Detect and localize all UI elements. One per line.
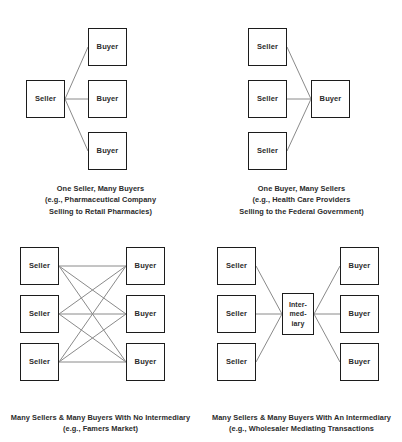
intermediary-label-line-3: iary — [292, 319, 305, 328]
node-seller-1: Seller — [20, 247, 59, 285]
node-buyer-1: Buyer — [340, 247, 379, 285]
caption-line: (e.g., Pharmaceutical Company — [0, 194, 201, 205]
node-buyer-2: Buyer — [88, 80, 127, 118]
node-seller-1: Seller — [26, 80, 65, 118]
node-label: Seller — [35, 94, 56, 103]
node-seller-2: Seller — [248, 80, 287, 118]
caption-line: Selling to Retail Pharmacies) — [0, 206, 201, 217]
node-seller-3: Seller — [20, 343, 59, 381]
panel-many-sellers-many-buyers-with-intermediary: Seller Seller Seller Inter- med- iary Bu… — [201, 221, 402, 442]
caption-one-seller-many-buyers: One Seller, Many Buyers (e.g., Pharmaceu… — [0, 183, 201, 217]
node-seller-3: Seller — [248, 132, 287, 170]
node-seller-2: Seller — [20, 295, 59, 333]
caption-one-buyer-many-sellers: One Buyer, Many Sellers (e.g., Health Ca… — [201, 183, 402, 217]
node-label: Buyer — [349, 309, 371, 318]
node-label: Buyer — [320, 94, 342, 103]
caption-line: (e.g., Health Care Providers — [201, 194, 402, 205]
intermediary-label-line-2: med- — [289, 309, 306, 318]
caption-line: Many Sellers & Many Buyers With An Inter… — [201, 412, 402, 423]
node-label: Seller — [226, 261, 247, 270]
node-buyer-1: Buyer — [311, 80, 350, 118]
caption-line: Many Sellers & Many Buyers With No Inter… — [0, 412, 201, 423]
diagram-no-intermediary: Seller Seller Seller Buyer Buyer Buyer — [0, 221, 201, 397]
node-label: Seller — [226, 309, 247, 318]
node-buyer-2: Buyer — [126, 295, 165, 333]
node-label: Buyer — [135, 261, 157, 270]
connector-seller-buyer-3 — [65, 99, 88, 151]
node-buyer-3: Buyer — [88, 132, 127, 170]
node-label: Buyer — [97, 146, 119, 155]
caption-line: One Seller, Many Buyers — [0, 183, 201, 194]
panel-many-sellers-many-buyers-no-intermediary: Seller Seller Seller Buyer Buyer Buyer M… — [0, 221, 201, 442]
node-label: Seller — [29, 261, 50, 270]
connector-intermediary-b3 — [314, 314, 340, 362]
panel-one-buyer-many-sellers: Seller Seller Seller Buyer One Buyer, Ma… — [201, 0, 402, 221]
market-structure-diagram: Seller Buyer Buyer Buyer One Seller, Man… — [0, 0, 402, 442]
node-seller-1: Seller — [248, 28, 287, 66]
node-label: Seller — [257, 146, 278, 155]
node-buyer-3: Buyer — [126, 343, 165, 381]
connector-intermediary-b1 — [314, 266, 340, 314]
connector-s1-intermediary — [256, 266, 282, 314]
panel-one-seller-many-buyers: Seller Buyer Buyer Buyer One Seller, Man… — [0, 0, 201, 221]
diagram-one-seller-many-buyers: Seller Buyer Buyer Buyer — [0, 0, 201, 176]
node-label: Buyer — [349, 261, 371, 270]
caption-no-intermediary: Many Sellers & Many Buyers With No Inter… — [0, 412, 201, 435]
node-label: Seller — [29, 357, 50, 366]
node-seller-2: Seller — [217, 295, 256, 333]
node-label: Seller — [257, 94, 278, 103]
node-intermediary: Inter- med- iary — [282, 293, 314, 335]
node-seller-3: Seller — [217, 343, 256, 381]
node-seller-1: Seller — [217, 247, 256, 285]
diagram-with-intermediary: Seller Seller Seller Inter- med- iary Bu… — [201, 221, 402, 397]
node-buyer-1: Buyer — [88, 28, 127, 66]
node-buyer-3: Buyer — [340, 343, 379, 381]
diagram-one-buyer-many-sellers: Seller Seller Seller Buyer — [201, 0, 402, 176]
node-buyer-1: Buyer — [126, 247, 165, 285]
node-label: Buyer — [349, 357, 371, 366]
intermediary-label-line-1: Inter- — [289, 300, 307, 309]
node-label: Seller — [29, 309, 50, 318]
caption-with-intermediary: Many Sellers & Many Buyers With An Inter… — [201, 412, 402, 435]
connector-seller-1-buyer — [287, 47, 311, 99]
caption-line: (e.g., Famers Market) — [0, 423, 201, 434]
node-buyer-2: Buyer — [340, 295, 379, 333]
connector-seller-buyer-1 — [65, 47, 88, 99]
node-label: Buyer — [97, 94, 119, 103]
node-label: Buyer — [97, 42, 119, 51]
caption-line: Selling to the Federal Government) — [201, 206, 402, 217]
connector-seller-3-buyer — [287, 99, 311, 151]
caption-line: One Buyer, Many Sellers — [201, 183, 402, 194]
node-label: Buyer — [135, 309, 157, 318]
node-label: Seller — [257, 42, 278, 51]
caption-line: (e.g., Wholesaler Mediating Transactions — [201, 423, 402, 434]
node-label: Buyer — [135, 357, 157, 366]
connector-s3-intermediary — [256, 314, 282, 362]
connector-lines-tr — [201, 0, 402, 176]
node-label: Seller — [226, 357, 247, 366]
